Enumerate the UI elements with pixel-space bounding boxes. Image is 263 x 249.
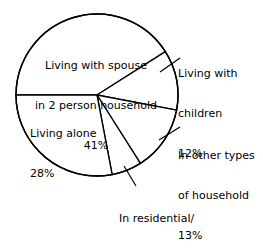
pie-label-living-alone-line1: Living alone [30,127,122,140]
pie-label-living-with-children-line2: children [178,107,262,120]
pie-label-living-with-spouse-line1: Living with spouse [32,59,160,72]
pie-label-in-residential-hospital-accommodation-line1: In residential/ [119,212,249,225]
pie-chart-figure: Living with spouse in 2 person household… [0,0,263,249]
pie-label-living-with-children-line1: Living with [178,67,262,80]
pie-label-in-residential-hospital-accommodation: In residential/ hospital accommodation 6… [119,186,249,249]
pie-label-living-alone: Living alone 28% [30,101,122,207]
pie-label-in-other-types-of-household-line1: In other types [178,149,263,162]
pie-label-living-alone-value: 28% [30,167,122,180]
